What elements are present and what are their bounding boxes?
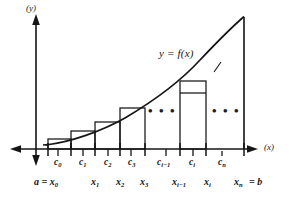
sample-label-c3: c3 <box>128 158 135 168</box>
sample-label-ci-minus-1-sub: i−1 <box>161 161 170 168</box>
partition-label-x1-sub: 1 <box>96 181 99 188</box>
sample-label-ci: ci <box>189 158 195 168</box>
ellipsis-second: • • • <box>212 104 240 117</box>
x-axis-arrow-left <box>10 145 21 153</box>
ellipsis-first: • • • <box>148 104 176 117</box>
sample-label-c0-sub: 0 <box>58 161 61 168</box>
partition-label-b: = b <box>249 177 262 187</box>
x-axis-label: (x) <box>264 143 274 152</box>
sample-label-c0: c0 <box>54 158 61 168</box>
sample-label-ci-sub: i <box>193 161 195 168</box>
sample-label-ci-minus-1: ci−1 <box>157 158 170 168</box>
partition-label-x0-sub: 0 <box>55 181 58 188</box>
sample-label-c2-sub: 2 <box>108 161 111 168</box>
sample-label-c3-sub: 3 <box>132 161 135 168</box>
function-label-leader <box>214 62 221 72</box>
partition-label-xn: xn <box>234 177 243 188</box>
y-axis-label: (y) <box>26 4 36 13</box>
partition-label-x0: a = x0 <box>34 177 58 188</box>
partition-label-x3: x3 <box>140 177 148 188</box>
partition-label-x2-sub: 2 <box>121 181 124 188</box>
y-axis-arrow-up <box>32 14 40 25</box>
y-axis-arrow-down <box>32 155 40 166</box>
sample-label-c1: c1 <box>79 158 86 168</box>
sample-tick-marks <box>58 149 222 156</box>
partition-label-x0-base: a = x <box>34 176 55 187</box>
partition-label-xn-sub: n <box>239 181 243 188</box>
partition-label-xi-minus-1-sub: i−1 <box>177 181 186 188</box>
function-curve-leadin <box>43 145 48 146</box>
partition-label-xi-minus-1: xi−1 <box>172 177 186 188</box>
sample-label-c1-sub: 1 <box>83 161 86 168</box>
riemann-rectangles-right <box>180 81 206 149</box>
y-axis <box>32 14 40 166</box>
riemann-rectangle-i <box>180 81 206 149</box>
partition-label-xi-sub: i <box>209 181 211 188</box>
sample-label-cn-sub: n <box>222 161 226 168</box>
partition-label-x2: x2 <box>116 177 124 188</box>
figure-canvas <box>0 0 292 197</box>
riemann-sum-figure: (y) (x) y = f(x) • • • • • • c0 c1 c2 c3… <box>0 0 292 197</box>
x-axis-arrow-right <box>247 145 258 153</box>
function-label: y = f(x) <box>159 48 194 59</box>
sample-label-cn: cn <box>218 158 226 168</box>
partition-label-xi: xi <box>204 177 211 188</box>
partition-label-x1: x1 <box>91 177 99 188</box>
partition-label-x3-sub: 3 <box>145 181 148 188</box>
sample-label-c2: c2 <box>104 158 111 168</box>
